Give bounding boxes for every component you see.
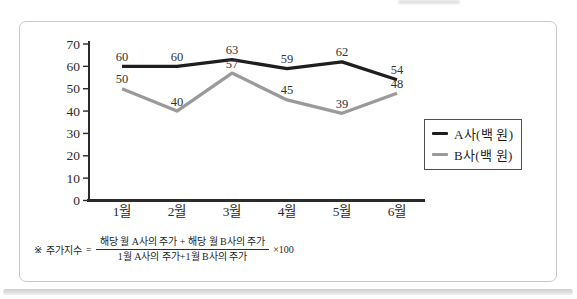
y-tick-label: 30 [67,126,81,141]
y-tick-label: 0 [73,193,80,208]
data-label-a: 63 [226,43,239,57]
x-tick-label: 1월 [113,204,132,219]
legend-item-a: A사(백 원) [432,124,513,143]
data-label-b: 45 [281,83,294,97]
formula-multiplier: ×100 [273,244,294,255]
page: { "chart_data": { "type": "line", "title… [0,0,577,299]
chart-legend: A사(백 원)B사(백 원) [424,119,522,170]
y-tick-label: 50 [67,81,81,96]
series-line-a [122,60,397,80]
x-tick-label: 4월 [278,204,297,219]
y-tick-label: 40 [67,104,81,119]
legend-swatch-icon [432,153,448,157]
x-tick-label: 2월 [168,204,187,219]
data-label-a: 59 [281,52,294,66]
x-tick-label: 6월 [388,204,407,219]
index-formula: ※ 주가지수 = 해당 월 A사의 주가 + 해당 월 B사의 주가 1월 A사… [34,236,294,263]
formula-equals: = [86,244,92,255]
data-label-b: 39 [336,97,349,111]
x-tick-label: 3월 [223,204,242,219]
data-label-b: 40 [171,95,184,109]
legend-label: B사(백 원) [454,145,513,164]
data-label-a: 54 [391,63,404,77]
y-tick-label: 60 [67,59,81,74]
x-tick-label: 5월 [333,204,352,219]
legend-label: A사(백 원) [454,124,513,143]
data-label-b: 50 [116,72,129,86]
data-label-a: 60 [116,50,129,64]
data-label-b: 48 [391,77,404,91]
formula-marker: ※ [34,244,42,255]
data-label-a: 60 [171,50,184,64]
formula-denominator: 1월 A사의 주가+1월 B사의 주가 [114,250,252,263]
y-tick-label: 20 [67,148,81,163]
scan-shadow [3,289,573,295]
legend-swatch-icon [432,132,448,136]
y-tick-label: 70 [67,37,81,52]
formula-label: 주가지수 [46,242,82,257]
data-label-b: 57 [226,57,239,71]
formula-fraction: 해당 월 A사의 주가 + 해당 월 B사의 주가 1월 A사의 주가+1월 B… [96,236,270,263]
data-label-a: 62 [336,45,349,59]
series-line-b [122,73,397,113]
y-tick-label: 10 [67,171,81,186]
formula-numerator: 해당 월 A사의 주가 + 해당 월 B사의 주가 [96,236,270,250]
legend-item-b: B사(백 원) [432,145,513,164]
